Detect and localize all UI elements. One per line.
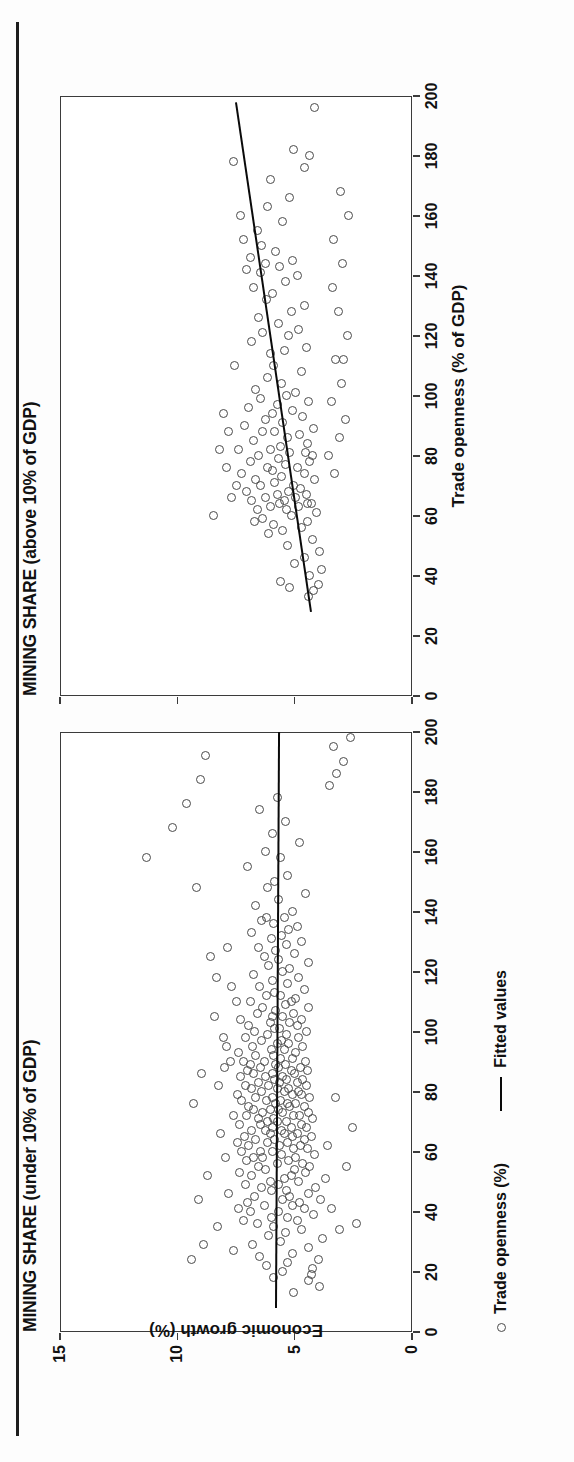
data-point xyxy=(315,1283,324,1292)
data-point xyxy=(247,1172,256,1181)
x-tick xyxy=(413,275,420,276)
x-tick xyxy=(413,1211,420,1212)
data-point xyxy=(339,758,348,767)
data-point xyxy=(249,284,258,293)
x-tick xyxy=(413,155,420,156)
data-point xyxy=(335,1226,344,1235)
y-tick xyxy=(59,697,60,704)
data-point xyxy=(235,1169,244,1178)
data-point xyxy=(197,1070,206,1079)
data-point xyxy=(285,584,294,593)
x-tick xyxy=(413,395,420,396)
data-point xyxy=(199,1241,208,1250)
data-point xyxy=(258,515,267,524)
data-point xyxy=(246,458,255,467)
data-point xyxy=(352,1220,361,1229)
data-point xyxy=(293,272,302,281)
data-point xyxy=(301,1058,310,1067)
data-point xyxy=(214,1082,223,1091)
x-tick xyxy=(413,515,420,516)
data-point xyxy=(270,428,279,437)
data-point xyxy=(329,236,338,245)
data-point xyxy=(288,257,297,266)
y-tick-label: 10 xyxy=(168,1345,186,1363)
data-point xyxy=(242,488,251,497)
data-point xyxy=(266,446,275,455)
x-tick xyxy=(413,95,420,96)
data-point xyxy=(283,1214,292,1223)
x-tick-label: 200 xyxy=(423,719,441,746)
data-point xyxy=(304,398,313,407)
data-point xyxy=(257,1184,266,1193)
data-point xyxy=(232,998,241,1007)
data-point xyxy=(253,506,262,515)
data-point xyxy=(247,1127,256,1136)
data-point xyxy=(242,266,251,275)
data-point xyxy=(300,302,309,311)
data-point xyxy=(250,1028,259,1037)
data-point xyxy=(293,923,302,932)
data-point xyxy=(247,497,256,506)
x-tick xyxy=(413,1331,420,1332)
data-point xyxy=(250,518,259,527)
data-point xyxy=(268,410,277,419)
data-point xyxy=(247,929,256,938)
data-point xyxy=(240,1133,249,1142)
data-point xyxy=(321,1175,330,1184)
data-point xyxy=(251,1052,260,1061)
x-tick-label: 160 xyxy=(423,839,441,866)
data-point xyxy=(246,254,255,263)
data-point xyxy=(206,953,215,962)
data-point xyxy=(334,308,343,317)
x-tick-label: 160 xyxy=(423,203,441,230)
data-point xyxy=(226,1058,235,1067)
data-point xyxy=(275,263,284,272)
data-point xyxy=(258,329,267,338)
data-point xyxy=(310,104,319,113)
data-point xyxy=(276,1238,285,1247)
data-point xyxy=(258,428,267,437)
data-point xyxy=(304,959,313,968)
data-point xyxy=(258,1004,267,1013)
data-point xyxy=(288,407,297,416)
legend: Trade openness (%) Fitted values xyxy=(492,970,510,1332)
circle-marker-icon xyxy=(497,1323,506,1332)
data-point xyxy=(261,848,270,857)
data-point xyxy=(213,1223,222,1232)
data-point xyxy=(264,530,273,539)
figure: MINING SHARE (under 10% of GDP) 02040608… xyxy=(0,0,574,1462)
data-point xyxy=(201,752,210,761)
x-tick-label: 200 xyxy=(423,83,441,110)
data-point xyxy=(328,284,337,293)
data-point xyxy=(223,944,232,953)
rotated-figure-wrapper: MINING SHARE (under 10% of GDP) 02040608… xyxy=(0,0,574,1462)
x-tick xyxy=(413,1271,420,1272)
data-point xyxy=(280,497,289,506)
data-point xyxy=(302,344,311,353)
data-point xyxy=(283,542,292,551)
data-point xyxy=(297,368,306,377)
data-point xyxy=(338,260,347,269)
data-point xyxy=(264,962,273,971)
y-tick xyxy=(294,1333,295,1340)
data-point xyxy=(267,1187,276,1196)
data-point xyxy=(327,398,336,407)
data-point xyxy=(303,518,312,527)
data-point xyxy=(267,935,276,944)
data-point xyxy=(288,908,297,917)
x-tick-label: 40 xyxy=(423,567,441,585)
data-point xyxy=(297,938,306,947)
x-tick xyxy=(413,791,420,792)
x-tick-label: 0 xyxy=(423,1328,441,1337)
data-point xyxy=(234,1049,243,1058)
data-point xyxy=(310,1151,319,1160)
x-tick xyxy=(413,635,420,636)
data-point xyxy=(203,1172,212,1181)
data-point xyxy=(261,260,270,269)
data-point xyxy=(316,1196,325,1205)
data-point xyxy=(224,428,233,437)
data-point xyxy=(239,1217,248,1226)
data-point xyxy=(194,1196,203,1205)
panel-mining-share-under-10: MINING SHARE (under 10% of GDP) 02040608… xyxy=(60,732,412,1332)
y-tick xyxy=(411,1333,412,1340)
